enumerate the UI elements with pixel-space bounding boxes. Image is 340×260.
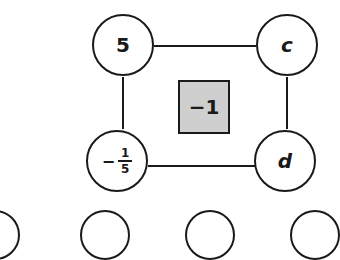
partial-circle-1: [0, 210, 20, 260]
node-top-right: c: [256, 14, 318, 76]
partial-circle-3: [185, 210, 235, 260]
node-bottom-right: d: [254, 130, 316, 192]
fraction-numerator: 1: [121, 147, 129, 159]
edge-right: [286, 77, 288, 129]
partial-circle-4: [290, 210, 340, 260]
center-box: −1: [178, 80, 230, 134]
node-top-left: 5: [92, 14, 154, 76]
edge-bottom: [148, 165, 256, 167]
node-bottom-left: − 1 5: [86, 130, 148, 192]
node-top-left-value: 5: [116, 33, 130, 57]
fraction-denominator: 5: [121, 163, 129, 175]
edge-left: [122, 77, 124, 129]
node-top-right-value: c: [281, 33, 293, 57]
node-bottom-right-value: d: [278, 149, 292, 173]
partial-circle-2: [80, 210, 130, 260]
edge-top: [154, 45, 256, 47]
fraction-sign: −: [102, 152, 115, 171]
fraction: − 1 5: [102, 147, 132, 175]
center-value: −1: [189, 95, 220, 119]
